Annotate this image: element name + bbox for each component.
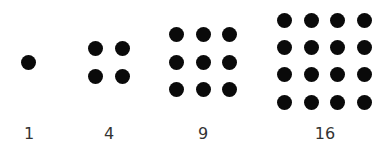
dot-icon (304, 95, 319, 110)
dot-icon (277, 67, 292, 82)
dot-icon (357, 67, 372, 82)
dot-icon (277, 95, 292, 110)
dot-icon (357, 95, 372, 110)
label-1: 1 (24, 124, 34, 143)
dot-icon (330, 67, 345, 82)
label-9: 9 (198, 124, 208, 143)
dot-icon (330, 40, 345, 55)
dot-icon (304, 40, 319, 55)
dot-icon (277, 40, 292, 55)
dot-icon (277, 13, 292, 28)
dot-icon (330, 95, 345, 110)
dot-icon (304, 67, 319, 82)
dot-icon (357, 40, 372, 55)
dot-icon (330, 13, 345, 28)
label-16: 16 (315, 124, 335, 143)
dot-icon (304, 13, 319, 28)
label-4: 4 (104, 124, 114, 143)
dot-icon (357, 13, 372, 28)
